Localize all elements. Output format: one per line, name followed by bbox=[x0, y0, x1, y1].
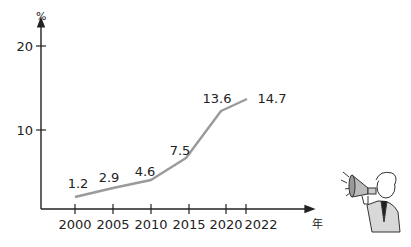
line-chart: % 20 10 年 2000 2005 2010 2015 2020 2022 … bbox=[0, 0, 411, 247]
data-label: 14.7 bbox=[258, 91, 287, 106]
x-tick-label: 2005 bbox=[96, 217, 129, 232]
data-label: 4.6 bbox=[135, 164, 156, 179]
y-tick-label-20: 20 bbox=[16, 39, 33, 54]
x-axis-unit: 年 bbox=[312, 217, 323, 231]
data-label: 13.6 bbox=[203, 91, 232, 106]
x-tick-label: 2020 bbox=[209, 217, 242, 232]
x-tick-label: 2015 bbox=[172, 217, 205, 232]
x-tick-label: 2000 bbox=[58, 217, 91, 232]
y-tick-label-10: 10 bbox=[16, 123, 33, 138]
y-axis-unit: % bbox=[36, 10, 46, 23]
data-label: 1.2 bbox=[68, 176, 89, 191]
x-tick-label: 2010 bbox=[134, 217, 167, 232]
man-with-megaphone-illustration bbox=[341, 172, 400, 232]
data-label: 2.9 bbox=[99, 170, 120, 185]
x-tick-label: 2022 bbox=[244, 217, 277, 232]
data-label: 7.5 bbox=[170, 143, 191, 158]
